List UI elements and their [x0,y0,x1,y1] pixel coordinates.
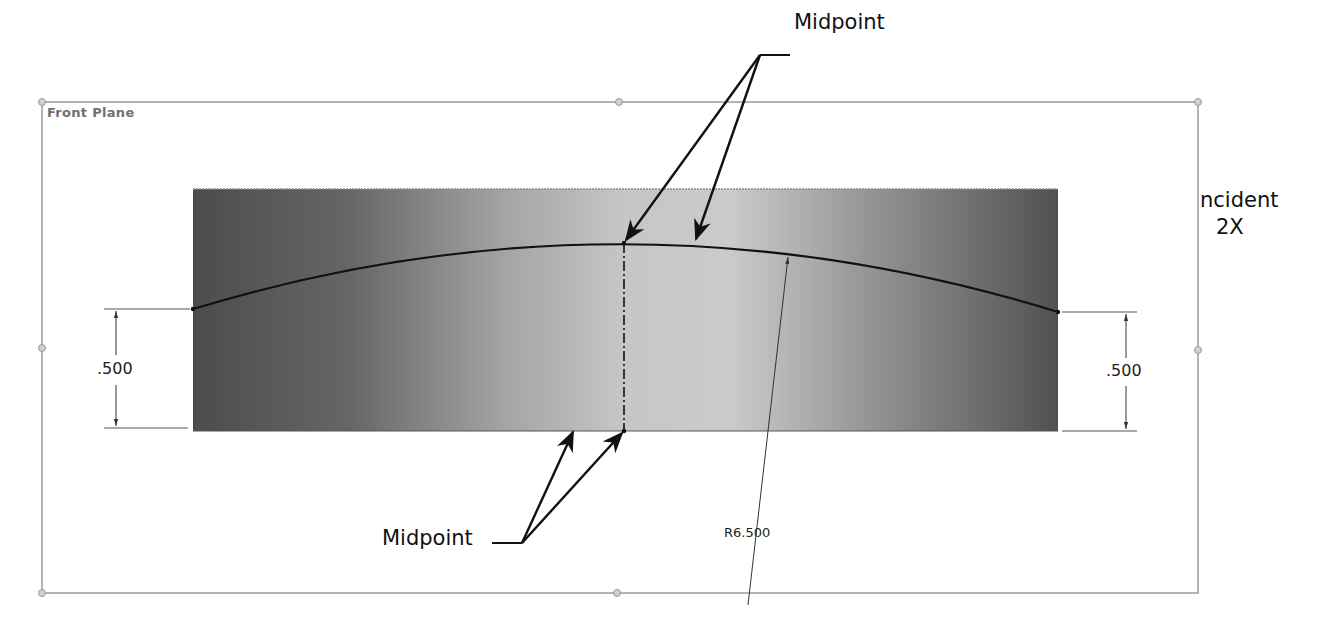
part-face [193,189,1058,431]
coincident-count: 2X [1200,214,1278,241]
bottom-midpoint-leader [492,432,622,543]
plane-handle-top-right [1195,99,1202,106]
sketch-drawing [0,0,1331,633]
arc-radius-dimension-value[interactable]: R6.500 [724,526,770,539]
plane-handle-mid-left [39,345,46,352]
right-height-dimension-value[interactable]: .500 [1106,362,1142,380]
sketch-canvas: Front Plane Midpoint Midpoint ncident 2X… [0,0,1331,633]
top-midpoint-label: Midpoint [794,12,885,33]
plane-handle-top-left [39,99,46,106]
left-height-dimension-value[interactable]: .500 [97,360,133,378]
plane-handle-mid-right [1195,347,1202,354]
plane-handle-top-mid [616,99,623,106]
plane-handle-bottom-left [39,590,46,597]
coincident-annotation: ncident 2X [1200,187,1278,241]
plane-name-label: Front Plane [47,106,135,119]
coincident-label: ncident [1200,187,1278,214]
plane-handle-bottom-mid [614,590,621,597]
bottom-midpoint-label: Midpoint [382,528,473,549]
